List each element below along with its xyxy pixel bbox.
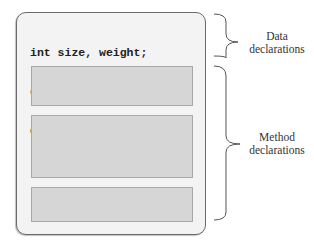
method-brace-icon [214,66,240,220]
data-declarations-label: Data declarations [244,30,310,56]
data-brace-icon [214,14,238,58]
method-declarations-label: Method declarations [244,131,310,157]
